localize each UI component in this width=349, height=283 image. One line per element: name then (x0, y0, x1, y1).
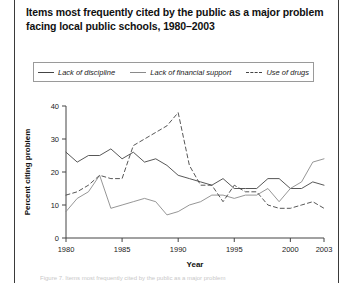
x-tick-label-2003: 2003 (316, 245, 333, 254)
figure-container: Items most frequently cited by the publi… (0, 0, 349, 283)
y-tick-label-30: 30 (51, 135, 59, 144)
y-axis-title: Percent citing problem (23, 129, 32, 216)
x-tick-label-1990: 1990 (170, 245, 187, 254)
y-tick-label-20: 20 (51, 168, 59, 177)
plot-area: 010203040198019851990199520002003YearPer… (0, 0, 349, 283)
y-tick-label-10: 10 (51, 201, 59, 210)
x-axis-title: Year (187, 260, 204, 269)
y-tick-label-0: 0 (55, 234, 59, 243)
series-line-lack-of-financial-support (66, 159, 324, 215)
x-tick-label-1995: 1995 (226, 245, 243, 254)
series-line-lack-of-discipline (66, 149, 324, 189)
x-tick-label-2000: 2000 (282, 245, 299, 254)
x-tick-label-1985: 1985 (114, 245, 131, 254)
chart-svg: 010203040198019851990199520002003YearPer… (0, 0, 349, 283)
x-tick-label-1980: 1980 (58, 245, 75, 254)
y-tick-label-40: 40 (51, 102, 59, 111)
figure-footer-caption: Figure 7. Items most frequently cited by… (40, 275, 320, 282)
